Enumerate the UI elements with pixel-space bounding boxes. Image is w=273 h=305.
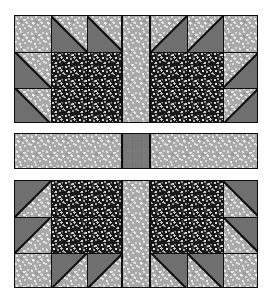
block-bottom-left-seam-v2 xyxy=(87,181,88,288)
block-top-right-seam-h2 xyxy=(151,88,258,89)
block-bottom-right-triangle-r2c1 xyxy=(187,253,223,288)
sash-right-horizontal xyxy=(150,133,258,169)
block-bottom-left-triangle-r2c2 xyxy=(87,253,122,288)
block-bottom-left-unit-r2c1 xyxy=(51,253,87,288)
block-top-right-triangle-r0c0 xyxy=(151,16,187,52)
block-top-left-unit-r1c0 xyxy=(15,52,51,88)
block-top-left-unit-r2c0 xyxy=(15,88,51,123)
block-top-right-triangle-r0c1 xyxy=(187,16,223,52)
block-bottom-right-seam-h2 xyxy=(151,253,258,254)
block-bottom-right-triangle-r2c0 xyxy=(151,253,187,288)
block-top-right xyxy=(150,15,258,123)
block-bottom-left-unit-r1c1 xyxy=(51,217,87,253)
sash-bottom-vertical xyxy=(122,180,150,288)
block-top-left-triangle-r1c0 xyxy=(15,52,51,88)
center-cornerstone xyxy=(122,133,150,169)
block-bottom-right-unit-r1c2 xyxy=(223,217,258,253)
block-bottom-right-unit-r0c0 xyxy=(151,181,187,217)
block-top-left-unit-r2c1 xyxy=(51,88,87,123)
block-top-left-unit-r0c2 xyxy=(87,16,122,52)
block-top-left-unit-r1c1 xyxy=(51,52,87,88)
block-bottom-right-unit-r1c0 xyxy=(151,217,187,253)
block-bottom-right-seam-v2 xyxy=(223,181,224,288)
block-top-left-seam-h1 xyxy=(15,52,122,53)
block-bottom-left-seam-h1 xyxy=(15,217,122,218)
block-top-right-unit-r1c2 xyxy=(223,52,258,88)
block-bottom-right-unit-r2c0 xyxy=(151,253,187,288)
block-top-left-triangle-r2c0 xyxy=(15,88,51,123)
block-top-left xyxy=(14,15,122,123)
block-top-right-unit-r0c1 xyxy=(187,16,223,52)
block-top-left-unit-r2c2 xyxy=(87,88,122,123)
block-top-right-seam-v1 xyxy=(187,16,188,123)
block-bottom-left-unit-r0c1 xyxy=(51,181,87,217)
block-top-left-seam-v1 xyxy=(51,16,52,123)
block-top-right-triangle-r1c2 xyxy=(223,52,258,88)
block-bottom-right xyxy=(150,180,258,288)
block-bottom-right-triangle-r0c2 xyxy=(223,181,258,217)
block-bottom-right-seam-h1 xyxy=(151,217,258,218)
sash-left-horizontal xyxy=(14,133,122,169)
block-bottom-left-triangle-r0c0 xyxy=(15,181,51,217)
block-top-right-unit-r0c0 xyxy=(151,16,187,52)
block-top-right-triangle-r2c2 xyxy=(223,88,258,123)
block-bottom-left-triangle-r2c1 xyxy=(51,253,87,288)
block-bottom-left-unit-r2c0 xyxy=(15,253,51,288)
block-bottom-left-unit-r1c2 xyxy=(87,217,122,253)
block-bottom-right-unit-r2c1 xyxy=(187,253,223,288)
block-bottom-left-triangle-r1c0 xyxy=(15,217,51,253)
block-top-right-unit-r2c2 xyxy=(223,88,258,123)
block-bottom-right-unit-r0c1 xyxy=(187,181,223,217)
block-top-left-triangle-r0c1 xyxy=(51,16,87,52)
block-top-right-unit-r1c1 xyxy=(187,52,223,88)
block-top-left-unit-r0c1 xyxy=(51,16,87,52)
block-top-right-unit-r0c2 xyxy=(223,16,258,52)
block-bottom-left xyxy=(14,180,122,288)
block-top-left-seam-v2 xyxy=(87,16,88,123)
block-bottom-left-unit-r1c0 xyxy=(15,217,51,253)
block-top-right-seam-h1 xyxy=(151,52,258,53)
block-bottom-right-seam-v1 xyxy=(187,181,188,288)
block-bottom-right-triangle-r1c2 xyxy=(223,217,258,253)
block-bottom-left-unit-r0c2 xyxy=(87,181,122,217)
block-top-right-unit-r2c0 xyxy=(151,88,187,123)
block-top-left-triangle-r0c2 xyxy=(87,16,122,52)
block-bottom-left-seam-v1 xyxy=(51,181,52,288)
block-top-right-unit-r2c1 xyxy=(187,88,223,123)
block-bottom-left-seam-h2 xyxy=(15,253,122,254)
block-top-left-unit-r1c2 xyxy=(87,52,122,88)
block-top-right-unit-r1c0 xyxy=(151,52,187,88)
quilt-canvas xyxy=(0,0,273,305)
block-bottom-right-unit-r0c2 xyxy=(223,181,258,217)
block-top-left-unit-r0c0 xyxy=(15,16,51,52)
block-bottom-left-unit-r2c2 xyxy=(87,253,122,288)
block-bottom-left-unit-r0c0 xyxy=(15,181,51,217)
sash-top-vertical xyxy=(122,15,150,123)
block-top-right-seam-v2 xyxy=(223,16,224,123)
block-bottom-right-unit-r1c1 xyxy=(187,217,223,253)
block-bottom-right-unit-r2c2 xyxy=(223,253,258,288)
block-top-left-seam-h2 xyxy=(15,88,122,89)
